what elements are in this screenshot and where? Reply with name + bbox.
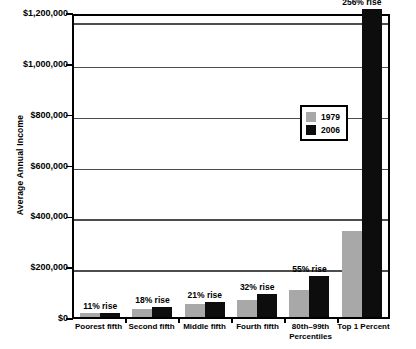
y-tick-label: $200,000 (0, 263, 68, 272)
legend-swatch (306, 112, 316, 122)
rise-annotation: 55% rise (292, 264, 327, 274)
x-axis-label-line: Top 1 Percent (337, 322, 390, 332)
x-axis-label: Second fifth (125, 322, 178, 341)
y-tick-label: $400,000 (0, 212, 68, 221)
bar-2006 (205, 302, 225, 317)
bar-group: 11% rise (74, 12, 126, 317)
legend-item: 1979 (306, 110, 340, 123)
rise-annotation: 256% rise (342, 0, 381, 7)
x-axis-label: 80th–99thPercentiles (284, 322, 337, 341)
bar-1979 (185, 304, 205, 317)
y-tick-label: $1,000,000 (0, 60, 68, 69)
y-axis-tick-labels: $1,200,000$1,000,000$800,000$600,000$400… (0, 0, 68, 349)
plot-area: 11% rise18% rise21% rise32% rise55% rise… (72, 14, 390, 319)
bar-1979 (289, 290, 309, 317)
bar-groups: 11% rise18% rise21% rise32% rise55% rise… (74, 12, 388, 317)
y-tick-label: $1,200,000 (0, 9, 68, 18)
x-axis-label-line: 80th–99th (284, 322, 337, 332)
legend-label: 2006 (321, 125, 340, 135)
rise-annotation: 32% rise (240, 282, 275, 292)
bar-chart: Average Annual Income $1,200,000$1,000,0… (0, 0, 416, 349)
rise-annotation: 21% rise (188, 290, 223, 300)
legend-item: 2006 (306, 123, 340, 136)
x-axis-label-line: Second fifth (125, 322, 178, 332)
bar-2006 (362, 9, 382, 317)
x-axis-label-line: Middle fifth (178, 322, 231, 332)
bar-2006 (309, 276, 329, 317)
x-axis-label: Poorest fifth (72, 322, 125, 341)
rise-annotation: 18% rise (135, 295, 170, 305)
bar-1979 (237, 300, 257, 317)
rise-annotation: 11% rise (83, 301, 117, 311)
bar-2006 (257, 294, 277, 317)
x-axis-label: Middle fifth (178, 322, 231, 341)
x-axis-label-line: Poorest fifth (72, 322, 125, 332)
legend: 19792006 (300, 105, 348, 141)
bar-1979 (342, 231, 362, 317)
bar-group: 256% rise (336, 12, 388, 317)
bar-group: 55% rise (283, 12, 335, 317)
bar-2006 (152, 307, 172, 317)
legend-swatch (306, 125, 316, 135)
y-tick-label: $600,000 (0, 162, 68, 171)
bar-1979 (80, 313, 100, 317)
bar-group: 21% rise (179, 12, 231, 317)
bar-group: 18% rise (126, 12, 178, 317)
legend-label: 1979 (321, 112, 340, 122)
x-axis-label-line: Fourth fifth (231, 322, 284, 332)
bar-2006 (100, 313, 120, 317)
bar-1979 (132, 309, 152, 317)
y-tick-label: $800,000 (0, 111, 68, 120)
x-axis-label: Fourth fifth (231, 322, 284, 341)
x-axis-label-line: Percentiles (284, 332, 337, 342)
x-axis-labels: Poorest fifthSecond fifthMiddle fifthFou… (72, 322, 390, 341)
bar-group: 32% rise (231, 12, 283, 317)
x-axis-label: Top 1 Percent (337, 322, 390, 341)
y-tick-label: $0 (0, 314, 68, 323)
